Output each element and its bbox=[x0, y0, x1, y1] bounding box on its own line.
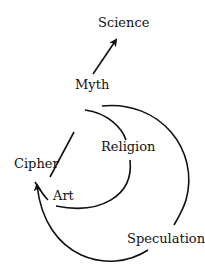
node-speculation: Speculation bbox=[127, 232, 205, 245]
diagram-canvas: Science Myth Religion Cipher Art Specula… bbox=[0, 0, 205, 279]
inner-arc bbox=[85, 110, 126, 140]
node-cipher: Cipher bbox=[14, 157, 59, 170]
node-myth: Myth bbox=[75, 78, 109, 91]
node-art: Art bbox=[53, 189, 74, 202]
arrow-myth-to-science bbox=[93, 40, 116, 74]
node-religion: Religion bbox=[101, 140, 155, 153]
node-science: Science bbox=[98, 16, 149, 29]
cipher-arrow-tail bbox=[35, 182, 48, 200]
